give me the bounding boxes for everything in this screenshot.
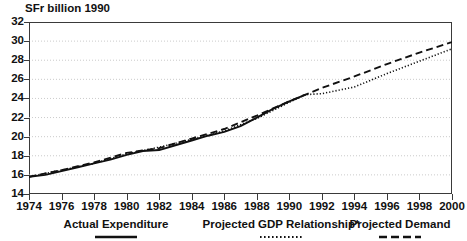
y-axis-unit-label: SFr billion 1990: [25, 2, 110, 14]
y-tick-mark: [24, 137, 30, 138]
y-tick-label: 14: [0, 187, 24, 199]
chart-legend: Actual ExpenditureProjected GDP Relation…: [0, 218, 467, 241]
series-line-dashed: [29, 42, 452, 177]
legend-line-sample-dotted: [258, 234, 304, 241]
legend-label: Projected Demand: [330, 218, 467, 231]
x-tick-label: 2000: [432, 200, 467, 212]
y-tick-mark: [24, 41, 30, 42]
y-tick-label: 26: [0, 72, 24, 84]
series-line-solid: [29, 95, 306, 177]
y-tick-mark: [24, 156, 30, 157]
legend-item[interactable]: Projected Demand: [330, 218, 467, 241]
y-tick-label: 18: [0, 149, 24, 161]
y-tick-mark: [24, 98, 30, 99]
plot-area: [29, 22, 452, 194]
y-tick-label: 24: [0, 91, 24, 103]
y-tick-mark: [24, 79, 30, 80]
y-tick-label: 30: [0, 34, 24, 46]
y-tick-mark: [24, 22, 30, 23]
legend-item[interactable]: Actual Expenditure: [36, 218, 196, 241]
y-tick-mark: [24, 118, 30, 119]
y-tick-label: 20: [0, 130, 24, 142]
chart-root: SFr billion 1990 32302826242220181614 19…: [0, 0, 467, 241]
legend-label: Actual Expenditure: [36, 218, 196, 231]
y-tick-label: 32: [0, 15, 24, 27]
y-tick-label: 16: [0, 168, 24, 180]
y-tick-mark: [24, 175, 30, 176]
series-line-dotted: [29, 49, 452, 177]
y-tick-label: 28: [0, 53, 24, 65]
legend-line-sample-dashed: [377, 234, 423, 241]
clipped-title: [0, 0, 467, 1]
y-tick-label: 22: [0, 111, 24, 123]
legend-line-sample-solid: [93, 234, 139, 241]
y-tick-mark: [24, 60, 30, 61]
